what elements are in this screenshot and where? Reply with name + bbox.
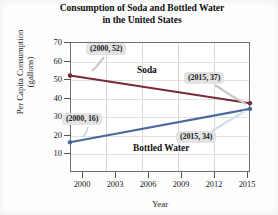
x-axis-title: Year [70,199,250,209]
chart-title-line-1: Consumption of Soda and Bottled Water [28,2,256,14]
y-axis-tick-label: 40 [32,93,62,103]
y-axis-tick-label: 10 [32,148,62,158]
chart-title-line-2: in the United States [28,14,256,26]
series-soda [68,73,252,105]
y-axis-tick-label: 60 [32,56,62,66]
x-axis-tick-label: 2000 [65,180,99,189]
annotation-water-2015: (2015, 34) [176,131,216,143]
x-axis-tick [82,172,83,178]
x-axis-tick [247,172,248,178]
x-axis-tick-label: 2009 [164,180,198,189]
x-axis-tick [214,172,215,178]
series-label-bottled-water: Bottled Water [133,143,189,153]
chart-figure: Consumption of Soda and Bottled Water in… [0,0,278,215]
annotation-soda-2015: (2015, 37) [184,72,224,84]
x-axis-tick-label: 2006 [131,180,165,189]
y-axis-tick-label: 50 [32,74,62,84]
y-axis-title-line-1: Per Capita Consumption [15,7,25,137]
series-label-soda: Soda [137,65,157,75]
x-axis-tick-label: 2015 [230,180,264,189]
y-axis-tick-label: 30 [32,111,62,121]
x-axis-tick [148,172,149,178]
x-axis-tick [115,172,116,178]
x-axis-tick-label: 2012 [197,180,231,189]
y-axis-tick-label: 70 [32,37,62,47]
y-axis-tick-label: 20 [32,130,62,140]
x-axis-tick-label: 2003 [98,180,132,189]
annotation-soda-2000: (2000, 52) [86,43,126,55]
annotation-water-2000: (2000, 16) [62,113,102,125]
chart-title: Consumption of Soda and Bottled Water in… [28,2,256,25]
x-axis-tick [181,172,182,178]
